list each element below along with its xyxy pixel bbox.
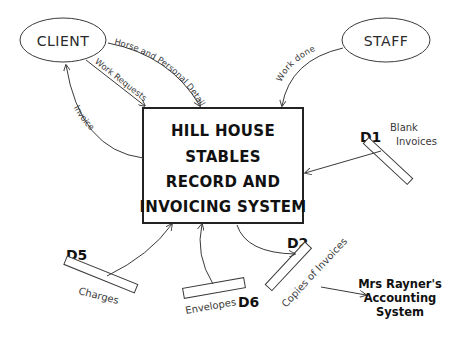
dfd-canvas: CLIENT STAFF HILL HOUSE STABLES RECORD A… (0, 0, 456, 337)
flow-horse-details[interactable]: Horse and Personal Details (0, 0, 207, 108)
store-d6-id: D6 (238, 294, 259, 310)
store-d5-label: Charges (78, 285, 121, 306)
flow-work-requests[interactable]: Work Requests (86, 56, 149, 106)
flow-d5-to-process (107, 224, 172, 276)
store-d1-label-1: Blank (390, 122, 418, 133)
flow-invoice[interactable]: Invoice (66, 65, 143, 158)
store-d6[interactable]: Envelopes D6 (183, 224, 260, 316)
entity-client-label: CLIENT (37, 33, 90, 49)
external-accounting-system[interactable]: Mrs Rayner's Accounting System (358, 277, 442, 319)
store-d6-label: Envelopes (184, 296, 236, 316)
accounting-line-3: System (376, 305, 424, 319)
process-line-2: STABLES (185, 148, 261, 166)
process-line-3: RECORD AND (166, 173, 280, 191)
process-line-4: INVOICING SYSTEM (139, 198, 306, 216)
entity-client[interactable]: CLIENT (20, 18, 106, 62)
flow-work-requests-label: Work Requests (93, 56, 149, 103)
flow-work-done-label: Work done (274, 43, 316, 83)
flow-work-done[interactable]: Work done (274, 43, 343, 106)
accounting-line-1: Mrs Rayner's (358, 277, 442, 291)
entity-staff-label: STAFF (364, 33, 409, 49)
store-d1[interactable]: D1 Blank Invoices (305, 122, 437, 184)
flow-invoice-label: Invoice (72, 104, 97, 133)
flow-d1-to-process (305, 151, 381, 173)
process-line-1: HILL HOUSE (171, 122, 275, 140)
process-box[interactable]: HILL HOUSE STABLES RECORD AND INVOICING … (139, 108, 306, 223)
flow-horse-details-label: Horse and Personal Details (0, 0, 207, 108)
accounting-line-2: Accounting (364, 291, 437, 305)
flow-d6-to-process (200, 224, 213, 284)
store-d5[interactable]: D5 Charges (64, 224, 172, 306)
entity-staff[interactable]: STAFF (342, 18, 430, 62)
store-d1-label-2: Invoices (396, 136, 437, 147)
